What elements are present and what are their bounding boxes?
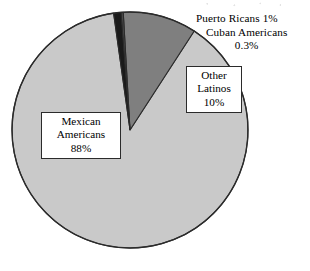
pie-label-mexican-americans: Mexican Americans 88% [41,112,121,159]
pie-label-cuban-americans: Cuban Americans0.3% [206,26,287,51]
pie-label-mexican-americans-line1: Mexican [47,115,115,128]
pie-label-other-latinos: Other Latinos 10% [186,66,242,113]
pie-label-other-latinos-value: 10% [192,96,236,109]
pie-label-cuban-americans-value: 0.3% [206,39,287,52]
pie-label-other-latinos-line2: Latinos [192,82,236,95]
pie-label-puerto-ricans: Puerto Ricans 1% [196,12,278,25]
pie-chart: Puerto Ricans 1% Cuban Americans0.3% Oth… [0,0,310,271]
pie-label-other-latinos-line1: Other [192,69,236,82]
pie-label-mexican-americans-line2: Americans [47,128,115,141]
pie-label-cuban-americans-name: Cuban Americans [206,26,287,38]
pie-label-mexican-americans-value: 88% [47,142,115,155]
